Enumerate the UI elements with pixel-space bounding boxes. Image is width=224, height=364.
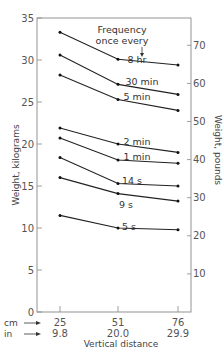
data-point <box>59 31 62 34</box>
data-point <box>177 64 180 67</box>
x-tick-label: 9.8 <box>52 328 68 339</box>
plot-border <box>37 18 191 312</box>
data-point <box>117 98 120 101</box>
series-label: 5 min <box>124 91 151 102</box>
line-chart: 05101520253035 10203040506070 8 hr30 min… <box>0 0 224 364</box>
data-point <box>59 137 62 140</box>
data-point <box>117 158 120 161</box>
right-tick-label: 70 <box>193 40 206 51</box>
series-5-min: 5 min <box>59 74 180 112</box>
plot-frame <box>37 18 191 312</box>
series-label: 30 min <box>125 76 158 87</box>
series-label: 9 s <box>119 199 133 210</box>
data-point <box>59 176 62 179</box>
right-axis-title: Weight, pounds <box>213 115 223 185</box>
data-point <box>59 156 62 159</box>
x-unit-label: in <box>4 329 12 339</box>
annotation-line1: Frequency <box>97 24 146 35</box>
series-label: 8 hr <box>128 54 147 65</box>
x-unit-label: cm <box>4 318 18 328</box>
series-line <box>60 55 178 94</box>
x-tick-label: 76 <box>172 317 185 328</box>
data-point <box>117 182 120 185</box>
right-tick-label: 60 <box>193 78 206 89</box>
data-point <box>117 143 120 146</box>
data-point <box>177 162 180 165</box>
left-tick-label: 20 <box>21 139 34 150</box>
right-tick-label: 10 <box>193 268 206 279</box>
series-group: 8 hr30 min5 min2 min1 min14 s9 s5 s <box>59 31 180 232</box>
data-point <box>177 93 180 96</box>
series-label: 14 s <box>122 175 142 186</box>
data-point <box>177 109 180 112</box>
data-point <box>59 127 62 130</box>
x-tick-label: 51 <box>112 317 125 328</box>
data-point <box>177 200 180 203</box>
data-point <box>177 151 180 154</box>
series-1-min: 1 min <box>59 137 180 165</box>
left-axis-title: Weight, kilograms <box>11 124 21 205</box>
left-tick-label: 25 <box>21 97 34 108</box>
data-point <box>117 192 120 195</box>
data-point <box>117 58 120 61</box>
annotation-line2: once every <box>96 35 149 46</box>
series-label: 1 min <box>124 151 151 162</box>
right-tick-label: 40 <box>193 154 206 165</box>
data-point <box>177 228 180 231</box>
x-axis-title: Vertical distance <box>84 339 159 349</box>
data-point <box>59 74 62 77</box>
left-tick-label: 5 <box>28 265 34 276</box>
right-y-axis: 10203040506070 <box>187 40 206 280</box>
right-tick-label: 30 <box>193 192 206 203</box>
right-tick-label: 20 <box>193 230 206 241</box>
x-tick-label: 25 <box>54 317 67 328</box>
x-tick-label: 29.9 <box>167 328 189 339</box>
data-point <box>177 185 180 188</box>
series-label: 2 min <box>124 136 151 147</box>
series-label: 5 s <box>122 221 136 232</box>
right-arrow-icon <box>36 321 41 325</box>
right-tick-label: 50 <box>193 116 206 127</box>
data-point <box>59 214 62 217</box>
left-tick-label: 0 <box>28 307 34 318</box>
left-tick-label: 15 <box>21 181 34 192</box>
x-tick-label: 20.0 <box>107 328 129 339</box>
series-line <box>60 75 178 110</box>
series-2-min: 2 min <box>59 127 180 154</box>
series-line <box>60 128 178 152</box>
data-point <box>117 83 120 86</box>
data-point <box>59 53 62 56</box>
data-point <box>117 227 120 230</box>
series-9-s: 9 s <box>59 176 180 210</box>
left-y-axis: 05101520253035 <box>21 13 42 318</box>
left-tick-label: 30 <box>21 55 34 66</box>
left-tick-label: 35 <box>21 13 34 24</box>
left-tick-label: 10 <box>21 223 34 234</box>
series-5-s: 5 s <box>59 214 180 232</box>
series-line <box>60 178 178 202</box>
right-arrow-icon <box>36 332 41 336</box>
series-line <box>60 157 178 186</box>
